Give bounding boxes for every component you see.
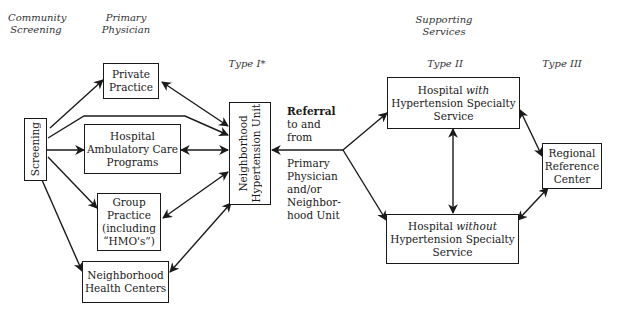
node-label: Center	[554, 173, 590, 186]
node-label: Service	[434, 110, 474, 123]
node-hospital-without-specialty: Hospital without Hypertension Specialty …	[386, 214, 519, 264]
node-label: “HMO's”)	[103, 235, 155, 248]
node-group-practice: Group Practice (including “HMO's”)	[97, 193, 161, 251]
node-label: Neighborhood	[87, 269, 163, 282]
node-label: Neighborhood	[237, 104, 250, 203]
node-label: Hypertension Specialty	[391, 97, 516, 110]
label-line: Referral	[287, 105, 335, 118]
label-text: Hospital	[408, 220, 456, 232]
label-line: hood Unit	[287, 209, 341, 222]
node-private-practice: Private Practice	[103, 63, 159, 99]
node-label: Hospital with	[418, 84, 489, 97]
node-label: Service	[433, 246, 473, 259]
node-label: Screening	[29, 122, 42, 176]
node-hospital-ambulatory-care: Hospital Ambulatory Care Programs	[84, 124, 181, 174]
node-label: Programs	[107, 156, 159, 169]
label-line: Physician	[287, 170, 341, 183]
label-line: Neighbor-	[287, 196, 341, 209]
node-label: Regional	[549, 147, 596, 160]
node-label: Hypertension Unit	[250, 104, 263, 203]
node-label: Private	[112, 68, 150, 81]
label-line: to and	[287, 118, 335, 131]
node-screening: Screening	[24, 118, 47, 181]
node-screening-label: Screening	[29, 122, 42, 176]
node-label: Practice	[107, 209, 151, 222]
node-nhu-label: Neighborhood Hypertension Unit	[237, 104, 263, 203]
label-emphasis: with	[466, 84, 489, 96]
label-emphasis: without	[456, 220, 497, 232]
label-text: Hospital	[418, 84, 466, 96]
node-regional-reference-center: Regional Reference Center	[542, 143, 602, 189]
label-line: Primary	[287, 157, 341, 170]
node-label: Hypertension Specialty	[390, 233, 515, 246]
node-label: Hospital	[110, 130, 155, 143]
node-neighborhood-hypertension-unit: Neighborhood Hypertension Unit	[229, 102, 271, 205]
node-label: Hospital without	[408, 220, 497, 233]
referral-label-top: Referral to and from	[287, 105, 335, 144]
node-label: Health Centers	[85, 282, 166, 295]
node-hospital-with-specialty: Hospital with Hypertension Specialty Ser…	[387, 77, 520, 129]
referral-label-bottom: Primary Physician and/or Neighbor- hood …	[287, 157, 341, 222]
node-label: Group	[112, 196, 145, 209]
label-line: from	[287, 131, 335, 144]
node-label: Practice	[109, 81, 153, 94]
node-label: Ambulatory Care	[87, 143, 178, 156]
label-line: and/or	[287, 183, 341, 196]
node-label: Reference	[545, 160, 599, 173]
node-label: (including	[102, 222, 156, 235]
node-neighborhood-health-centers: Neighborhood Health Centers	[82, 261, 169, 303]
